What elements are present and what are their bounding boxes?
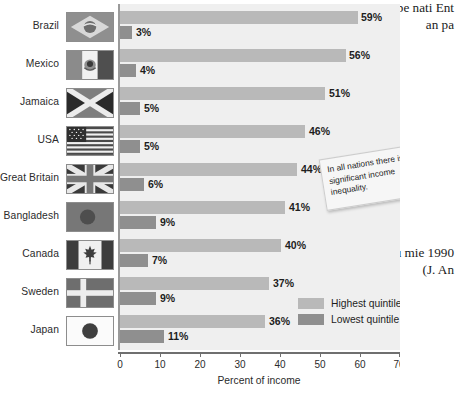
country-label-usa: USA (0, 134, 59, 145)
x-tick-label-40: 40 (265, 359, 295, 370)
country-label-japan: Japan (0, 324, 59, 335)
bar-lowest-bangladesh (120, 216, 156, 229)
bar-value-lowest-bangladesh: 9% (160, 216, 175, 229)
bar-highest-canada (120, 239, 281, 252)
x-tick-label-20: 20 (185, 359, 215, 370)
x-tick-label-60: 60 (345, 359, 375, 370)
x-tick-mark-30 (240, 352, 241, 357)
country-label-canada: Canada (0, 248, 59, 259)
bar-value-highest-usa: 46% (309, 125, 330, 138)
bar-highest-mexico (120, 49, 346, 62)
x-tick-label-50: 50 (305, 359, 335, 370)
country-label-jamaica: Jamaica (0, 96, 59, 107)
bar-lowest-canada (120, 254, 148, 267)
country-label-great-britain: Great Britain (0, 172, 59, 183)
usa-flag (66, 126, 114, 156)
x-tick-mark-20 (200, 352, 201, 357)
bar-value-highest-mexico: 56% (349, 49, 370, 62)
bar-lowest-mexico (120, 64, 136, 77)
x-tick-mark-40 (280, 352, 281, 357)
sweden-flag (66, 278, 114, 308)
legend-item-lowest-quintile: Lowest quintile (298, 312, 401, 326)
country-label-brazil: Brazil (0, 20, 59, 31)
bar-value-lowest-sweden: 9% (160, 292, 175, 305)
body-text-lower: p cr ma tu th hou mie 1990 (J. An (400, 245, 454, 279)
country-label-mexico: Mexico (0, 58, 59, 69)
bar-lowest-great-britain (120, 178, 144, 191)
bar-value-lowest-usa: 5% (144, 140, 159, 153)
japan-flag (66, 316, 114, 346)
bar-value-lowest-great-britain: 6% (148, 178, 163, 191)
income-inequality-chart-figure: Brazil Mexico Jamaica USA Great Britain … (0, 0, 456, 398)
chart-legend: Highest quintile Lowest quintile (298, 296, 401, 328)
bangladesh-flag (66, 202, 114, 232)
bar-value-lowest-canada: 7% (152, 254, 167, 267)
x-tick-mark-0 (120, 352, 121, 357)
legend-label-highest-quintile: Highest quintile (331, 298, 401, 309)
bar-value-highest-japan: 36% (269, 315, 290, 328)
bar-lowest-brazil (120, 26, 132, 39)
legend-swatch-highest-quintile (298, 298, 324, 309)
jamaica-flag (66, 88, 114, 118)
bar-highest-usa (120, 125, 305, 138)
page-body-text: the nu style. of pe nati Ent an pa p cr … (400, 0, 456, 398)
bar-value-highest-canada: 40% (285, 239, 306, 252)
x-tick-label-30: 30 (225, 359, 255, 370)
bar-value-highest-bangladesh: 41% (289, 201, 310, 214)
bar-value-lowest-japan: 11% (168, 330, 188, 343)
bar-value-highest-sweden: 37% (273, 277, 294, 290)
bar-highest-japan (120, 315, 265, 328)
bar-lowest-usa (120, 140, 140, 153)
bar-highest-bangladesh (120, 201, 285, 214)
canada-flag (66, 240, 114, 270)
legend-swatch-lowest-quintile (298, 314, 324, 325)
bar-value-lowest-jamaica: 5% (144, 102, 159, 115)
country-label-bangladesh: Bangladesh (0, 210, 59, 221)
bar-value-highest-brazil: 59% (361, 11, 382, 24)
flag-column (66, 0, 114, 350)
bar-highest-sweden (120, 277, 269, 290)
x-axis-title: Percent of income (118, 375, 400, 386)
x-tick-label-0: 0 (105, 359, 135, 370)
x-tick-mark-60 (360, 352, 361, 357)
brazil-flag (66, 12, 114, 42)
bar-value-lowest-mexico: 4% (140, 64, 155, 77)
country-label-column: Brazil Mexico Jamaica USA Great Britain … (0, 0, 62, 350)
bar-lowest-japan (120, 330, 164, 343)
great-britain-flag (66, 164, 114, 194)
mexico-flag (66, 50, 114, 80)
bar-highest-brazil (120, 11, 358, 24)
legend-label-lowest-quintile: Lowest quintile (331, 314, 399, 325)
bar-highest-jamaica (120, 87, 325, 100)
bar-lowest-jamaica (120, 102, 140, 115)
legend-item-highest-quintile: Highest quintile (298, 296, 401, 310)
bar-value-lowest-brazil: 3% (136, 26, 151, 39)
body-text-upper: the nu style. of pe nati Ent an pa (400, 0, 454, 34)
bar-value-highest-jamaica: 51% (329, 87, 350, 100)
x-tick-label-10: 10 (145, 359, 175, 370)
bar-highest-great-britain (120, 163, 297, 176)
x-tick-mark-10 (160, 352, 161, 357)
country-label-sweden: Sweden (0, 286, 59, 297)
x-tick-mark-50 (320, 352, 321, 357)
bar-lowest-sweden (120, 292, 156, 305)
